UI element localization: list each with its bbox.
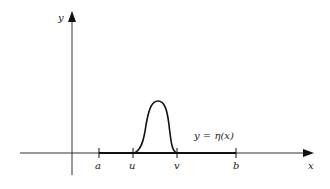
y-axis-arrow-icon	[68, 11, 76, 22]
x-axis-label: x	[308, 160, 314, 171]
y-axis-label: y	[57, 12, 64, 23]
x-axis-arrow-icon	[303, 149, 314, 157]
tick-label-u: u	[129, 160, 135, 171]
tick-label-v: v	[174, 160, 180, 171]
tick-label-a: a	[95, 160, 101, 171]
tick-label-b: b	[233, 160, 239, 171]
bump-curve	[133, 101, 177, 153]
curve-label: y = η(x)	[193, 130, 234, 141]
function-graph: y x a u v b y = η(x)	[0, 0, 330, 189]
